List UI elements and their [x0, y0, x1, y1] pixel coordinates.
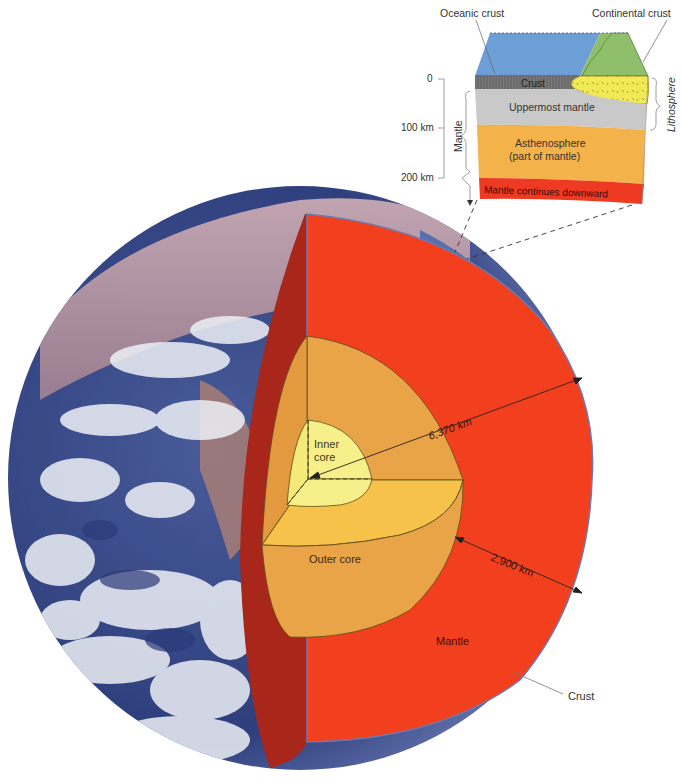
- depth-0: 0: [427, 73, 433, 84]
- continental-crust-label: Continental crust: [592, 7, 671, 19]
- outer-core-label: Outer core: [309, 553, 361, 565]
- lithosphere-block-diagram: Crust Uppermost mantle Asthenosphere (pa…: [401, 7, 677, 206]
- earth-interior-diagram: 6,370 km 2,900 km Inner core Outer core …: [0, 0, 682, 783]
- crust-label: Crust: [568, 690, 594, 702]
- block-crust-label: Crust: [521, 78, 545, 89]
- oceanic-crust-label: Oceanic crust: [440, 7, 504, 19]
- uppermost-mantle-label: Uppermost mantle: [509, 101, 595, 113]
- crust-leader-line: [513, 672, 563, 694]
- mantle-bracket-label: Mantle: [452, 120, 464, 152]
- continental-crust-leader: [643, 20, 667, 62]
- mantle-down-arrow-icon: [467, 200, 473, 206]
- depth-100: 100 km: [401, 122, 434, 133]
- depth-scale: [438, 79, 444, 178]
- lithosphere-label: Lithosphere: [665, 77, 677, 132]
- asthenosphere-label: Asthenosphere (part of mantle): [509, 137, 589, 162]
- lithosphere-bracket: [650, 78, 660, 130]
- depth-200: 200 km: [401, 172, 434, 183]
- mantle-label: Mantle: [436, 635, 469, 647]
- earth-globe: 6,370 km 2,900 km Inner core Outer core …: [8, 186, 594, 770]
